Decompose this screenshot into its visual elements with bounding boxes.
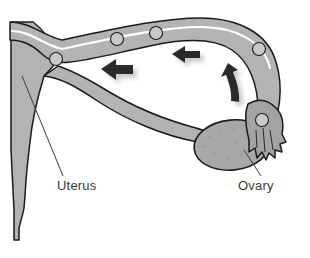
transport-arrow-near-uterus [101, 59, 133, 80]
ovum-5 [256, 114, 269, 127]
label-ovary: Ovary [238, 178, 274, 193]
ovulation-arrow [221, 63, 239, 102]
ovum-2 [111, 33, 124, 46]
ovum-4 [253, 43, 266, 56]
diagram-canvas: Uterus Ovary [0, 0, 310, 258]
ovum-3 [150, 27, 163, 40]
ovum-1 [50, 53, 63, 66]
transport-arrow-mid-tube [172, 46, 200, 63]
anatomy-diagram-figure: Uterus Ovary [0, 0, 310, 258]
label-uterus: Uterus [57, 178, 97, 193]
